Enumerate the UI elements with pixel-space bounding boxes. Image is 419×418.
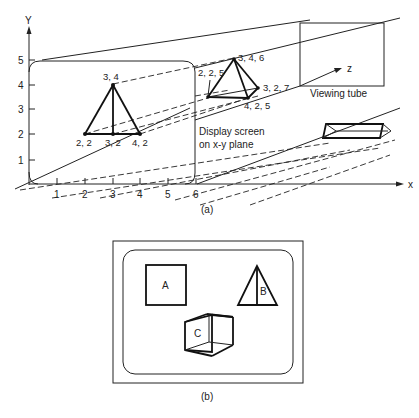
figure-b: A B C (b) bbox=[113, 241, 303, 402]
y-tick-3: 3 bbox=[18, 104, 24, 115]
point-label-pyramid-front: 4, 2, 5 bbox=[244, 100, 270, 111]
y-axis-arrow-icon bbox=[27, 26, 32, 34]
point-label-mid: 3, 2 bbox=[105, 137, 121, 148]
diagram-canvas: Y 1 2 3 4 5 x 1 2 3 4 bbox=[0, 0, 419, 418]
x-axis-label: x bbox=[408, 179, 413, 190]
point-label-top: 3, 4 bbox=[103, 71, 119, 82]
monitor-frame bbox=[113, 241, 303, 383]
x-tick-3: 3 bbox=[110, 189, 116, 200]
y-axis-label: Y bbox=[25, 15, 32, 26]
label-c: C bbox=[194, 328, 201, 339]
y-tick-4: 4 bbox=[18, 80, 24, 91]
y-tick-2: 2 bbox=[18, 129, 24, 140]
y-ticks: 1 2 3 4 5 bbox=[18, 55, 35, 166]
label-b: B bbox=[260, 286, 267, 297]
figure-a: Y 1 2 3 4 5 x 1 2 3 4 bbox=[15, 15, 413, 215]
point-label-pyramid-right: 3, 2, 7 bbox=[263, 82, 289, 93]
tube-bottom-left-edge bbox=[15, 108, 190, 189]
tube-top-right-edge bbox=[195, 18, 400, 68]
label-a: A bbox=[162, 280, 169, 291]
shape-triangle-b bbox=[238, 266, 277, 305]
y-tick-1: 1 bbox=[18, 155, 24, 166]
z-axis bbox=[300, 70, 336, 86]
shape-cube-c bbox=[185, 314, 233, 356]
point-label-pyramid-left: 2, 2, 5 bbox=[198, 67, 224, 78]
distant-prism bbox=[323, 124, 391, 138]
tube-top-edge bbox=[42, 20, 310, 60]
display-screen-label-line1: Display screen bbox=[199, 126, 265, 137]
viewing-tube-label: Viewing tube bbox=[310, 88, 368, 99]
figure-b-caption: (b) bbox=[201, 391, 213, 402]
z-axis-arrow-icon bbox=[334, 68, 342, 73]
z-axis-label: z bbox=[347, 63, 352, 74]
x-tick-2: 2 bbox=[82, 189, 88, 200]
y-tick-5: 5 bbox=[18, 55, 24, 66]
x-tick-1: 1 bbox=[54, 189, 60, 200]
display-screen-label-line2: on x-y plane bbox=[199, 139, 254, 150]
x-tick-5: 5 bbox=[165, 189, 171, 200]
point-label-left: 2, 2 bbox=[76, 137, 92, 148]
point-label-apex: 3, 4, 6 bbox=[238, 52, 264, 63]
point-label-right: 4, 2 bbox=[132, 137, 148, 148]
triangle-2d bbox=[83, 83, 142, 136]
x-axis-arrow-icon bbox=[396, 182, 404, 187]
figure-a-caption: (a) bbox=[201, 204, 213, 215]
